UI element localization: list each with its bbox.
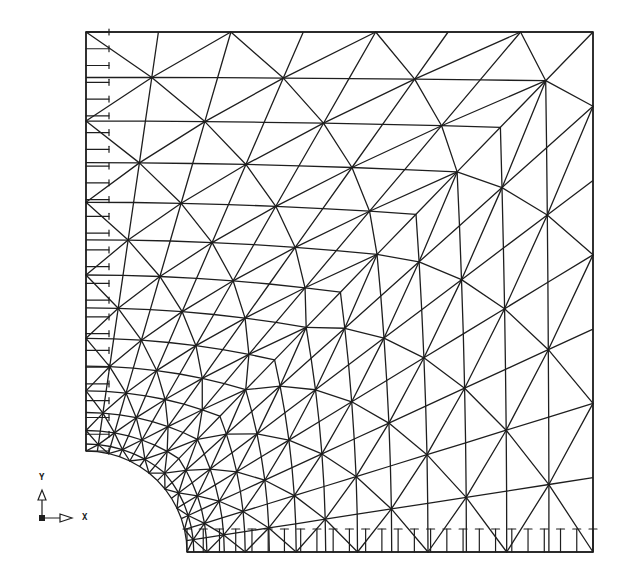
mesh-diagonal xyxy=(419,262,461,280)
mesh-diagonal xyxy=(325,519,357,552)
mesh-diagonal xyxy=(415,32,521,79)
mesh-diagonal xyxy=(356,477,391,509)
mesh-diagonal xyxy=(86,391,103,413)
mesh-diagonal xyxy=(210,434,226,469)
mesh-diagonal xyxy=(377,254,419,261)
mesh-diagonal xyxy=(128,240,160,276)
mesh-diagonal xyxy=(265,480,295,495)
mesh-diagonal xyxy=(86,445,98,451)
mesh-diagonal xyxy=(289,440,322,454)
mesh-diagonal xyxy=(243,511,269,527)
mesh-diagonal xyxy=(547,215,593,255)
mesh-diagonal xyxy=(118,308,141,340)
mesh-diagonal xyxy=(118,276,160,308)
mesh-diagonal xyxy=(315,390,351,402)
mesh-diagonal xyxy=(139,163,181,203)
x-axis-label: X xyxy=(82,513,87,522)
mesh-diagonal xyxy=(142,440,145,459)
mesh-diagonal xyxy=(114,433,122,450)
mesh-diagonal xyxy=(188,515,204,523)
mesh-diagonal xyxy=(505,309,549,350)
mesh-diagonal xyxy=(376,32,415,79)
mesh-diagonal xyxy=(246,354,249,389)
mesh-diagonal xyxy=(384,262,419,338)
mesh-diagonal xyxy=(389,423,427,455)
mesh-diagonal xyxy=(224,535,246,552)
mesh-diagonal xyxy=(345,254,377,328)
mesh-radial-line xyxy=(186,478,593,541)
mesh-diagonal xyxy=(283,78,323,123)
mesh-canvas xyxy=(0,0,620,587)
mesh-diagonal xyxy=(295,247,305,287)
mesh-diagonal xyxy=(442,126,458,172)
mesh-diagonal xyxy=(86,121,139,163)
mesh-diagonal xyxy=(245,288,305,318)
mesh-diagonal xyxy=(167,427,168,452)
mesh-diagonal xyxy=(196,346,202,379)
mesh-diagonal xyxy=(322,402,352,454)
mesh-diagonal xyxy=(249,327,306,354)
mesh-diagonal xyxy=(141,340,156,370)
mesh-diagonal xyxy=(245,318,249,354)
mesh-diagonal xyxy=(197,496,219,501)
mesh-diagonal xyxy=(181,203,212,242)
y-arrowhead-icon xyxy=(38,490,46,500)
mesh-diagonal xyxy=(465,388,507,430)
mesh-diagonal xyxy=(457,172,502,188)
mesh-diagonal xyxy=(370,211,377,254)
mesh-diagonal xyxy=(391,455,427,509)
fe-mesh-figure: Y X xyxy=(0,0,620,587)
mesh-diagonal xyxy=(505,215,548,309)
mesh-diagonal xyxy=(305,288,306,328)
mesh-diagonal xyxy=(257,386,280,434)
mesh-diagonal xyxy=(212,243,233,281)
mesh-diagonal xyxy=(521,32,546,81)
mesh-diagonal xyxy=(205,122,246,165)
mesh-diagonal xyxy=(315,328,344,390)
mesh-diagonal xyxy=(246,164,276,206)
mesh-diagonal xyxy=(246,386,280,390)
mesh-diagonal xyxy=(323,123,352,167)
mesh-radial-line xyxy=(157,32,593,481)
mesh-diagonal xyxy=(280,386,315,390)
mesh-radial-line xyxy=(130,32,376,461)
mesh-diagonal xyxy=(352,126,442,168)
mesh-diagonal xyxy=(352,402,389,423)
mesh-diagonal xyxy=(182,281,233,312)
mesh-diagonal xyxy=(202,390,245,410)
mesh-elements xyxy=(86,32,593,552)
mesh-diagonal xyxy=(160,276,182,311)
mesh-diagonal xyxy=(305,254,377,287)
mesh-diagonal xyxy=(466,497,507,552)
mesh-diagonal xyxy=(389,358,424,423)
mesh-diagonal xyxy=(548,350,593,404)
mesh-diagonal xyxy=(547,106,593,215)
mesh-diagonal xyxy=(502,188,547,215)
mesh-diagonal xyxy=(546,81,593,107)
mesh-diagonal xyxy=(193,540,207,552)
mesh-diagonal xyxy=(269,528,296,552)
mesh-diagonal xyxy=(506,350,548,431)
mesh-diagonal xyxy=(294,496,325,520)
mesh-diagonal xyxy=(226,390,245,434)
mesh-diagonal xyxy=(257,434,289,440)
x-arrowhead-icon xyxy=(60,514,72,522)
mesh-diagonal xyxy=(130,459,145,461)
mesh-diagonal xyxy=(202,354,249,378)
mesh-diagonal xyxy=(210,469,236,472)
mesh-radial-line xyxy=(140,32,448,467)
y-axis-label: Y xyxy=(39,473,44,482)
mesh-diagonal xyxy=(269,496,295,528)
mesh-diagonal xyxy=(306,327,345,328)
mesh-diagonal xyxy=(219,501,243,511)
mesh-diagonal xyxy=(276,206,295,247)
mesh-diagonal xyxy=(126,393,136,418)
mesh-diagonal xyxy=(384,338,424,358)
mesh-diagonal xyxy=(86,32,152,78)
mesh-diagonal xyxy=(419,172,457,262)
mesh-diagonal xyxy=(212,206,276,242)
mesh-radial-line xyxy=(172,181,594,499)
mesh-diagonal xyxy=(136,418,142,440)
mesh-diagonal xyxy=(345,328,384,338)
mesh-diagonal xyxy=(110,340,142,366)
